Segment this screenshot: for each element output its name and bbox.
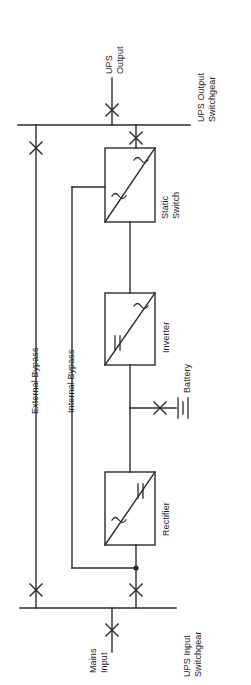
label-ups-output-switchgear: UPS Output Switchgear	[196, 73, 217, 122]
label-battery: Battery	[182, 364, 193, 393]
ups-single-line-diagram: UPS Output UPS Output Switchgear Static …	[0, 0, 251, 685]
label-mains-input: Mains Input	[88, 648, 109, 673]
static-switch-diagonal	[105, 148, 155, 222]
internal-bypass-junction-dot	[133, 565, 138, 570]
label-static-switch: Static Switch	[160, 192, 181, 219]
label-internal-bypass: Internal Bypass	[66, 349, 77, 413]
inverter-diagonal	[105, 293, 155, 365]
label-rectifier: Rectifier	[161, 502, 172, 536]
static-switch-ac-out-symbol	[134, 158, 148, 163]
label-ups-input-switchgear: UPS Input Switchgear	[182, 631, 203, 677]
battery-cell-symbol	[178, 398, 188, 418]
label-inverter: Inverter	[161, 322, 172, 353]
label-external-bypass: External Bypass	[30, 347, 41, 414]
label-ups-output: UPS Output	[104, 46, 125, 74]
rectifier-diagonal	[105, 472, 155, 545]
